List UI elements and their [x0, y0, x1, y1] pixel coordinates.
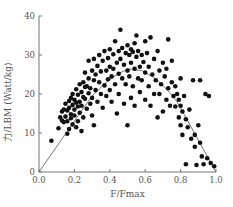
data-point — [129, 61, 134, 66]
data-point — [180, 133, 185, 138]
data-point — [155, 115, 160, 120]
data-point — [113, 82, 118, 87]
data-point — [139, 53, 144, 58]
data-point — [97, 53, 102, 58]
data-point — [74, 87, 79, 92]
data-point — [162, 74, 167, 79]
data-point — [161, 109, 166, 114]
data-point — [93, 72, 98, 77]
data-point — [109, 100, 114, 105]
data-point — [146, 64, 151, 69]
data-point — [134, 33, 139, 38]
data-point — [90, 113, 95, 118]
y-axis-label: 力/LBM (Watt/kg) — [2, 62, 13, 141]
data-point — [83, 70, 88, 75]
data-point — [81, 115, 86, 120]
data-point — [100, 105, 105, 110]
data-point — [88, 86, 93, 91]
data-point — [143, 70, 148, 75]
data-point — [164, 98, 169, 103]
data-point — [143, 39, 148, 44]
data-point — [170, 59, 175, 64]
data-point — [154, 78, 159, 83]
data-point — [178, 103, 183, 108]
data-point — [125, 68, 130, 73]
data-point — [104, 94, 109, 99]
axes: 0.00.20.40.60.81.0 010203040 — [24, 11, 223, 185]
data-point — [159, 82, 164, 87]
data-point — [65, 119, 70, 124]
x-tick-label: 0.4 — [103, 175, 117, 185]
x-ticks: 0.00.20.40.60.81.0 — [32, 169, 223, 185]
data-point — [134, 55, 139, 60]
data-point — [63, 114, 68, 119]
data-point — [92, 123, 97, 128]
data-point — [168, 103, 173, 108]
data-point — [131, 50, 136, 55]
data-point — [138, 64, 143, 69]
data-point — [63, 102, 68, 107]
data-point — [198, 78, 203, 83]
data-point — [106, 56, 111, 61]
data-point — [152, 92, 157, 97]
data-point — [100, 59, 105, 64]
x-tick-label: 0.8 — [174, 175, 188, 185]
data-point — [180, 109, 185, 114]
data-point — [72, 107, 77, 112]
data-point — [141, 60, 146, 65]
scatter-points — [49, 27, 216, 168]
data-point — [196, 123, 201, 128]
data-point — [187, 107, 192, 112]
data-point — [164, 66, 169, 71]
data-point — [108, 47, 113, 52]
data-point — [200, 154, 205, 159]
data-point — [184, 162, 189, 167]
data-point — [139, 78, 144, 83]
y-tick-label: 40 — [24, 11, 35, 21]
data-point — [155, 49, 160, 54]
data-point — [79, 129, 84, 134]
data-point — [97, 80, 102, 85]
data-point — [67, 127, 72, 132]
data-point — [120, 46, 125, 51]
data-point — [175, 92, 180, 97]
data-point — [177, 98, 182, 103]
data-point — [178, 76, 183, 81]
data-point — [85, 107, 90, 112]
y-tick-label: 10 — [24, 128, 35, 138]
data-point — [70, 122, 75, 127]
x-tick-label: 0.6 — [138, 175, 152, 185]
data-point — [178, 123, 183, 128]
x-tick-label: 1.0 — [209, 175, 223, 185]
data-point — [194, 163, 199, 168]
data-point — [86, 59, 91, 64]
data-point — [102, 49, 107, 54]
data-point — [185, 125, 190, 130]
data-point — [116, 71, 121, 76]
data-point — [127, 74, 132, 79]
data-point — [99, 92, 104, 97]
x-axis-label: F/Fmax — [110, 189, 145, 199]
data-point — [88, 102, 93, 107]
data-point — [143, 98, 148, 103]
data-point — [102, 83, 107, 88]
data-point — [111, 52, 116, 57]
data-point — [108, 88, 113, 93]
data-point — [99, 69, 104, 74]
data-point — [92, 57, 97, 62]
data-point — [198, 141, 203, 146]
data-point — [173, 104, 178, 109]
data-point — [157, 92, 162, 97]
data-point — [104, 68, 109, 73]
data-point — [166, 37, 171, 42]
data-point — [93, 88, 98, 93]
data-point — [152, 57, 157, 62]
data-point — [109, 74, 114, 79]
data-point — [120, 76, 125, 81]
data-point — [79, 90, 84, 95]
data-point — [145, 51, 150, 56]
data-point — [115, 61, 120, 66]
data-point — [113, 39, 118, 44]
data-point — [118, 57, 123, 62]
data-point — [132, 66, 137, 71]
